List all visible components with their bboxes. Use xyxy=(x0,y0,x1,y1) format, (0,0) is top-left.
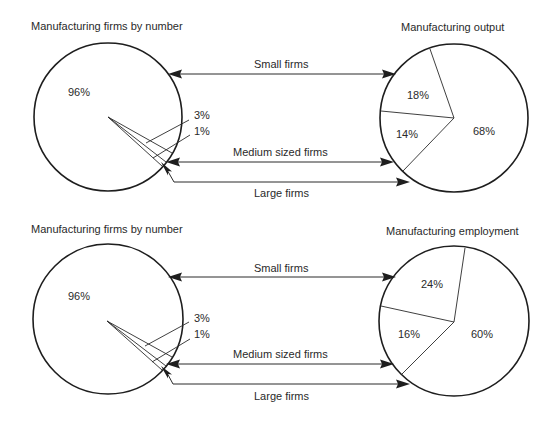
bottom-left-pie: 96% 3% 1% xyxy=(33,244,210,394)
arrowhead-left-icon xyxy=(161,162,172,176)
pie-comparison-diagram: Manufacturing firms by number Manufactur… xyxy=(0,0,557,426)
top-left-title: Manufacturing firms by number xyxy=(31,20,183,32)
slice-label-96: 96% xyxy=(68,86,90,98)
slice-label-1: 1% xyxy=(194,125,210,137)
slice-label-96: 96% xyxy=(68,290,90,302)
large-firms-label: Large firms xyxy=(254,390,310,402)
small-firms-label: Small firms xyxy=(254,58,309,70)
small-firms-label: Small firms xyxy=(254,262,309,274)
medium-firms-label: Medium sized firms xyxy=(233,146,328,158)
bottom-right-pie: 24% 16% 60% xyxy=(379,246,529,396)
bottom-left-title: Manufacturing firms by number xyxy=(31,223,183,235)
bottom-panel: Manufacturing firms by number Manufactur… xyxy=(31,223,529,402)
slice-label-medium: 16% xyxy=(398,328,420,340)
slice-label-small: 24% xyxy=(421,278,443,290)
pie-circle xyxy=(33,244,183,394)
top-right-pie: 18% 14% 68% xyxy=(380,44,528,192)
top-panel: Manufacturing firms by number Manufactur… xyxy=(31,20,528,199)
medium-firms-label: Medium sized firms xyxy=(233,348,328,360)
bottom-right-title: Manufacturing employment xyxy=(386,225,519,237)
arrowhead-right-icon xyxy=(396,178,410,187)
slice-label-large: 60% xyxy=(471,328,493,340)
slice-label-large: 68% xyxy=(473,125,495,137)
slice-label-3: 3% xyxy=(194,312,210,324)
top-left-pie: 96% 3% 1% xyxy=(34,43,210,191)
top-right-title: Manufacturing output xyxy=(401,21,504,33)
large-firms-arrow xyxy=(166,371,398,384)
slice-label-small: 18% xyxy=(407,89,429,101)
slice-label-medium: 14% xyxy=(396,128,418,140)
large-firms-label: Large firms xyxy=(254,187,310,199)
slice-label-1: 1% xyxy=(194,328,210,340)
slice-label-3: 3% xyxy=(194,109,210,121)
large-firms-arrow xyxy=(166,168,398,182)
arrowhead-left-icon xyxy=(161,366,172,379)
